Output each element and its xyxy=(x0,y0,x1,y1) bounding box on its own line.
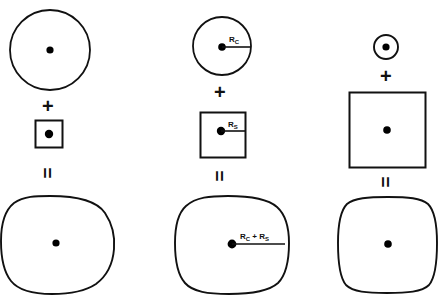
operator-equals-left: = xyxy=(38,167,57,177)
label-radius-square: RS xyxy=(228,121,238,129)
label-radius-circle-sub: C xyxy=(235,39,239,45)
rounded-circle-result-center-dot xyxy=(52,239,59,246)
label-radius-sum-sub-a: C xyxy=(246,236,250,242)
label-radius-circle: RC xyxy=(229,36,239,44)
operator-equals-right: = xyxy=(376,176,395,186)
medium-square-outline xyxy=(201,113,246,158)
rounded-square-result-center-dot xyxy=(384,240,392,248)
label-radius-square-base: R xyxy=(228,120,234,129)
small-square-center-dot xyxy=(45,130,53,138)
label-radius-sum: RC + RS xyxy=(240,233,269,241)
operator-plus-right: + xyxy=(380,66,392,86)
label-radius-sum-operator: + xyxy=(250,232,259,241)
operator-plus-left: + xyxy=(42,96,54,116)
shape-convolution-diagram: + = + = + = RC RS RC + RS xyxy=(0,0,447,300)
large-circle-center-dot xyxy=(46,46,53,53)
label-radius-sum-base-a: R xyxy=(240,232,246,241)
label-radius-sum-sub-b: S xyxy=(265,236,269,242)
label-radius-square-sub: S xyxy=(234,124,238,130)
operator-plus-middle: + xyxy=(214,82,226,102)
diagram-canvas xyxy=(0,0,447,300)
large-square-center-dot xyxy=(383,126,391,134)
label-radius-circle-base: R xyxy=(229,35,235,44)
small-circle-center-dot xyxy=(382,43,389,50)
operator-equals-middle: = xyxy=(210,170,229,180)
